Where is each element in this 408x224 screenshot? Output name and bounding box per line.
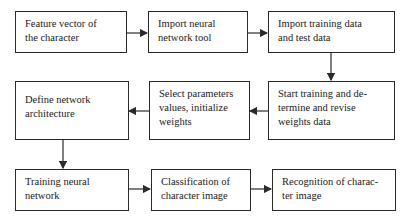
node-text-line: Training neural [25,175,119,189]
node-recognition: Recognition of charac- ter image [272,169,396,211]
node-select-parameters: Select parameters values, initialize wei… [149,81,250,140]
node-text-line: weights [159,115,240,129]
node-feature-vector: Feature vector of the character [15,11,127,53]
node-text-line: network tool [158,31,238,45]
node-text-line: ter image [282,189,386,203]
node-text-line: Import neural [158,17,238,31]
node-text-line: the character [25,31,117,45]
node-text-line: architecture [25,107,119,121]
node-import-training-data: Import training data and test data [268,11,395,53]
node-text-line: termine and revise [278,101,385,115]
node-text-line: weights data [278,115,385,129]
node-import-nn-tool: Import neural network tool [148,11,248,53]
node-classification: Classification of character image [151,169,251,211]
node-start-training: Start training and de- termine and revis… [268,81,395,140]
node-text-line: Recognition of charac- [282,175,386,189]
node-text-line: and test data [278,31,385,45]
node-define-architecture: Define network architecture [15,81,129,140]
node-text-line: Select parameters [159,87,240,101]
node-text-line: Import training data [278,17,385,31]
node-text-line: network [25,189,119,203]
node-text-line: Start training and de- [278,87,385,101]
node-text-line: Define network [25,93,119,107]
node-text-line: character image [161,189,241,203]
node-text-line: values, initialize [159,101,240,115]
node-training-nn: Training neural network [15,169,129,211]
node-text-line: Classification of [161,175,241,189]
node-text-line: Feature vector of [25,17,117,31]
